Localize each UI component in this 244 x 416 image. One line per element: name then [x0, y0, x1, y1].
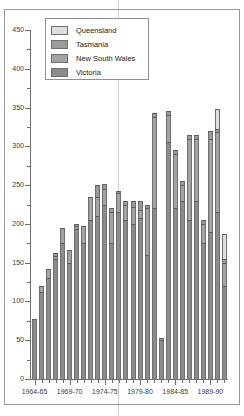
chart-bar: [109, 208, 114, 379]
x-axis-major-tick: [70, 380, 71, 385]
bar-segment-victoria: [173, 208, 178, 379]
chart-bar: [166, 111, 171, 379]
chart-figure: 050100150200250300350400450 1964-651969-…: [0, 0, 244, 416]
bar-segment-victoria: [123, 220, 128, 379]
x-axis-minor-tick: [161, 380, 162, 383]
x-axis-minor-tick: [42, 380, 43, 383]
x-axis-tick-label: 1989-90: [190, 388, 230, 396]
bar-segment-victoria: [187, 220, 192, 379]
y-axis-tick-label: 400: [4, 65, 24, 72]
x-axis-minor-tick: [168, 380, 169, 383]
bar-segment-new-south-wales: [138, 210, 143, 219]
chart-bar: [123, 201, 128, 379]
chart-bar: [88, 197, 93, 379]
bar-segment-new-south-wales: [208, 139, 213, 232]
chart-bar: [138, 201, 143, 379]
bar-segment-victoria: [74, 229, 79, 379]
bar-segment-victoria: [88, 220, 93, 379]
x-axis-tick-label: 1969-70: [50, 388, 90, 396]
x-axis-minor-tick: [56, 380, 57, 383]
bar-segment-victoria: [215, 212, 220, 379]
x-axis-tick-label: 1979-80: [120, 388, 160, 396]
bar-segment-victoria: [109, 243, 114, 379]
bar-segment-new-south-wales: [131, 207, 136, 224]
x-axis-major-tick: [140, 380, 141, 385]
chart-bar: [131, 201, 136, 379]
bar-segment-new-south-wales: [166, 115, 171, 142]
legend-item: Victoria: [51, 67, 101, 78]
bar-segment-victoria: [131, 224, 136, 379]
chart-bar: [67, 250, 72, 379]
y-axis-tick-label: 250: [4, 181, 24, 188]
x-axis-minor-tick: [196, 380, 197, 383]
bar-segment-new-south-wales: [215, 132, 220, 212]
bar-segment-tasmania: [138, 201, 143, 210]
chart-bar: [116, 191, 121, 379]
bar-segment-new-south-wales: [60, 228, 65, 244]
y-axis-tick-label: 0: [4, 375, 24, 382]
x-axis-major-tick: [105, 380, 106, 385]
bar-segment-new-south-wales: [46, 269, 51, 278]
legend-item-label: Victoria: [76, 68, 101, 77]
bar-segment-victoria: [81, 243, 86, 379]
bar-segment-victoria: [60, 243, 65, 379]
legend-swatch-icon: [51, 40, 68, 49]
chart-bar: [215, 109, 220, 379]
chart-bar: [60, 228, 65, 379]
x-axis-major-tick: [35, 380, 36, 385]
chart-bar: [159, 338, 164, 379]
chart-bar: [194, 135, 199, 379]
x-axis-tick-label: 1964-65: [15, 388, 55, 396]
bar-segment-victoria: [138, 218, 143, 379]
y-axis-tick-label: 450: [4, 26, 24, 33]
x-axis-minor-tick: [203, 380, 204, 383]
y-axis-tick-label: 100: [4, 297, 24, 304]
bar-segment-new-south-wales: [81, 226, 86, 243]
bar-segment-victoria: [116, 212, 121, 379]
bar-segment-new-south-wales: [173, 154, 178, 208]
bar-segment-new-south-wales: [95, 197, 100, 216]
bar-segment-victoria: [53, 259, 58, 379]
x-axis-minor-tick: [91, 380, 92, 383]
chart-bar: [53, 253, 58, 379]
y-axis-tick-label: 50: [4, 336, 24, 343]
bar-segment-victoria: [95, 216, 100, 379]
chart-bar: [222, 234, 227, 379]
bar-segment-new-south-wales: [194, 139, 199, 201]
x-axis-tick-label: 1974-75: [85, 388, 125, 396]
x-axis-minor-tick: [189, 380, 190, 383]
x-axis-minor-tick: [217, 380, 218, 383]
bar-segment-new-south-wales: [67, 250, 72, 262]
x-axis-minor-tick: [147, 380, 148, 383]
bar-segment-victoria: [152, 208, 157, 379]
chart-legend: QueenslandTasmaniaNew South WalesVictori…: [45, 18, 149, 80]
bar-segment-new-south-wales: [201, 224, 206, 243]
chart-bar: [152, 113, 157, 379]
x-axis-minor-tick: [63, 380, 64, 383]
bar-segment-victoria: [166, 142, 171, 379]
bar-segment-victoria: [46, 278, 51, 379]
x-axis-minor-tick: [154, 380, 155, 383]
legend-swatch-icon: [51, 68, 68, 77]
bar-segment-new-south-wales: [180, 185, 185, 201]
x-axis-minor-tick: [77, 380, 78, 383]
x-axis-major-tick: [175, 380, 176, 385]
bar-segment-new-south-wales: [102, 189, 107, 205]
x-axis-line: [30, 379, 228, 380]
bar-segment-new-south-wales: [187, 139, 192, 220]
bar-segment-new-south-wales: [109, 212, 114, 243]
x-axis-minor-tick: [119, 380, 120, 383]
bar-segment-victoria: [222, 286, 227, 379]
chart-bar: [173, 150, 178, 379]
x-axis-minor-tick: [49, 380, 50, 383]
bar-segment-new-south-wales: [145, 208, 150, 255]
legend-item-label: New South Wales: [76, 54, 135, 63]
bar-segment-new-south-wales: [222, 263, 227, 286]
bar-segment-victoria: [208, 232, 213, 379]
x-axis-major-tick: [210, 380, 211, 385]
chart-bar: [95, 185, 100, 379]
chart-bar: [145, 205, 150, 379]
bar-segment-queensland: [215, 109, 220, 128]
x-axis-minor-tick: [112, 380, 113, 383]
bar-segment-new-south-wales: [152, 117, 157, 209]
